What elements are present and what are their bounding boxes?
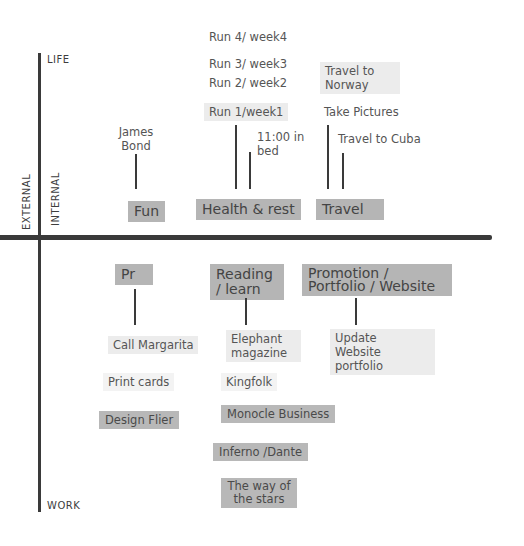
axis-label-work: WORK	[47, 500, 80, 511]
category-health-rest: Health & rest	[196, 199, 301, 220]
category-travel: Travel	[316, 199, 384, 220]
connector-line	[327, 125, 329, 189]
item-update-website-portfolio: Update Website portfolio	[330, 329, 435, 375]
category-reading-learn: Reading / learn	[210, 264, 284, 300]
connector-line	[249, 152, 251, 189]
vertical-axis	[38, 53, 41, 512]
connector-line	[235, 125, 237, 189]
item-way-of-stars: The way of the stars	[221, 478, 297, 508]
connector-line	[245, 298, 247, 325]
axis-label-life: LIFE	[47, 54, 70, 65]
axis-label-external: EXTERNAL	[21, 174, 32, 230]
connector-line	[134, 289, 136, 325]
item-kingfolk: Kingfolk	[221, 373, 277, 391]
item-take-pictures: Take Pictures	[324, 105, 399, 119]
item-call-margarita: Call Margarita	[108, 336, 198, 354]
item-run-2: Run 2/ week2	[209, 76, 287, 90]
category-promotion-portfolio-website: Promotion / Portfolio / Website	[302, 264, 452, 296]
item-run-4: Run 4/ week4	[209, 30, 287, 44]
item-monocle-business: Monocle Business	[221, 405, 335, 423]
item-travel-cuba: Travel to Cuba	[338, 132, 421, 146]
item-run-1: Run 1/week1	[204, 103, 288, 121]
item-print-cards: Print cards	[103, 373, 174, 391]
item-run-3: Run 3/ week3	[209, 57, 287, 71]
category-pr: Pr	[115, 264, 153, 285]
item-james-bond: James Bond	[118, 125, 154, 153]
connector-line	[355, 298, 357, 325]
connector-line	[135, 154, 137, 189]
axis-label-internal: INTERNAL	[50, 172, 61, 226]
horizontal-axis	[0, 235, 492, 240]
item-travel-norway: Travel to Norway	[320, 62, 400, 94]
item-11-in-bed: 11:00 in bed	[257, 130, 307, 158]
connector-line	[342, 153, 344, 189]
category-fun: Fun	[128, 201, 165, 222]
item-elephant-magazine: Elephant magazine	[226, 330, 301, 362]
item-design-flier: Design Flier	[99, 411, 179, 429]
item-inferno-dante: Inferno /Dante	[213, 443, 308, 461]
